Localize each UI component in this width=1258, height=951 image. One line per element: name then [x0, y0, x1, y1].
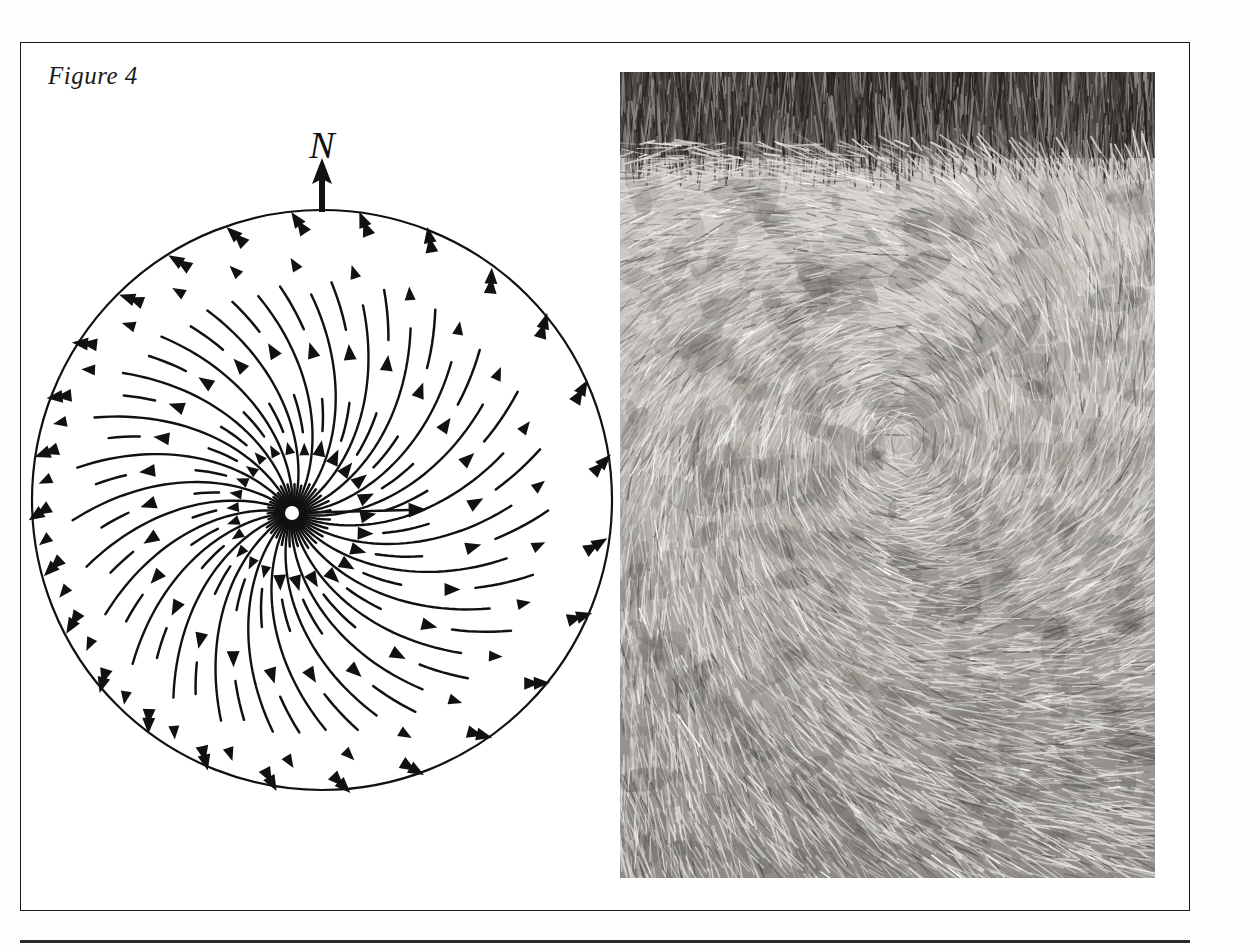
streamline-segment [209, 448, 237, 461]
figure-caption: Figure 4 [48, 62, 138, 90]
flow-arrowhead [313, 440, 326, 457]
streamline-inner [292, 265, 368, 513]
straw-stroke [878, 360, 897, 361]
streamline-segment [452, 630, 511, 632]
streamline-segment [109, 437, 140, 439]
flow-arrowhead [490, 367, 501, 382]
flow-arrowhead [466, 498, 483, 512]
flow-arrowhead [195, 632, 208, 649]
flow-arrowhead [285, 442, 295, 455]
streamline-inner [216, 513, 292, 761]
flow-arrowhead [308, 342, 320, 359]
straw-stroke [621, 538, 622, 577]
flow-arrowhead [420, 617, 437, 630]
streamline-segment [216, 513, 292, 721]
flow-arrowhead [531, 481, 545, 494]
flow-arrowhead [447, 694, 462, 705]
streamline-inner [86, 510, 292, 650]
north-label: N [308, 124, 337, 166]
flow-arrowhead [153, 432, 170, 445]
straw-stroke [913, 324, 920, 325]
straw-stroke [994, 412, 995, 423]
flow-arrowhead [268, 343, 282, 360]
streamline-segment [325, 694, 358, 730]
page-bottom-rule [20, 940, 1190, 943]
straw-stroke [1065, 744, 1089, 745]
straw-stroke [684, 72, 685, 94]
straw-stroke [845, 292, 861, 293]
straw-stroke [1057, 72, 1058, 107]
straw-stroke [1022, 99, 1023, 140]
streamline-segment [331, 282, 345, 329]
streamline-segment [324, 595, 356, 628]
streamline-segment [195, 492, 219, 493]
flow-arrowhead [261, 565, 271, 578]
flow-arrowhead [412, 382, 424, 399]
flow-arrowhead [452, 321, 463, 335]
flow-arrowhead [409, 503, 427, 518]
straw-stroke [674, 825, 675, 841]
straw-stroke [730, 72, 731, 106]
streamline-segment [73, 482, 292, 520]
streamline-segment [292, 405, 483, 516]
flow-arrowhead [229, 490, 242, 500]
flow-arrowhead [273, 575, 286, 591]
streamline-segment [261, 589, 262, 627]
straw-stroke [923, 72, 924, 105]
flow-arrowhead [143, 530, 160, 544]
flow-arrowhead [139, 464, 156, 477]
flow-arrowhead [397, 726, 412, 738]
streamline-segment [94, 417, 292, 513]
straw-stroke [959, 72, 960, 109]
streamline-segment [383, 524, 428, 533]
streamline-segment [373, 686, 415, 712]
streamline-segment [124, 396, 155, 401]
flow-arrowhead [226, 502, 239, 512]
straw-stroke [661, 546, 662, 558]
straw-stroke [666, 156, 685, 157]
straw-stroke [1013, 397, 1014, 411]
flow-arrowhead [299, 443, 309, 456]
figure-page: Figure 4 N [0, 0, 1258, 951]
straw-stroke [1040, 792, 1052, 793]
straw-stroke [1068, 73, 1069, 89]
streamline-segment [149, 356, 186, 371]
straw-stroke [623, 674, 624, 688]
streamline-segment [458, 350, 480, 405]
flow-arrowhead [489, 650, 503, 661]
straw-stroke [867, 72, 868, 108]
streamline-segment [496, 511, 549, 539]
flow-arrowhead [223, 746, 234, 761]
flow-arrowhead [485, 268, 498, 284]
streamline [289, 513, 493, 740]
flow-arrowhead [302, 666, 316, 683]
flow-arrowhead [264, 666, 276, 683]
flow-arrowhead [346, 662, 362, 678]
streamline-segment [101, 513, 128, 528]
flow-arrowhead [59, 584, 72, 598]
flow-arrowhead [405, 287, 416, 301]
streamline-segment [427, 310, 435, 368]
straw-stroke [1000, 99, 1001, 120]
flow-arrowhead [227, 651, 240, 667]
flow-arrowhead [86, 636, 97, 651]
straw-stroke [931, 557, 967, 558]
streamline-segment [196, 663, 197, 695]
flow-arrowhead [168, 725, 179, 739]
straw-stroke [1126, 242, 1127, 275]
streamline-segment [294, 395, 303, 432]
streamline [292, 268, 497, 514]
flow-arrowhead [230, 266, 244, 280]
straw-stroke [1010, 72, 1011, 103]
straw-stroke [699, 109, 700, 133]
straw-stroke [900, 499, 936, 500]
streamline-segment [475, 575, 532, 588]
straw-stroke [687, 147, 696, 148]
streamline-segment [193, 511, 216, 518]
flow-arrowhead [122, 322, 137, 333]
straw-stroke [663, 165, 674, 166]
straw-stroke [1019, 625, 1034, 626]
streamline-segment [376, 554, 422, 557]
straw-stroke [1130, 366, 1131, 382]
straw-stroke [916, 594, 927, 595]
